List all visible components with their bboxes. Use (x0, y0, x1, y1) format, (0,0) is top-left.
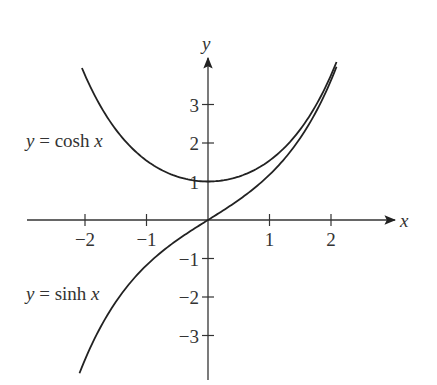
y-tick-label: −2 (179, 287, 199, 308)
x-axis-label: x (399, 210, 409, 231)
y-tick-label: 2 (190, 133, 200, 154)
sinh-label: y = sinh x (24, 283, 100, 304)
x-tick-label: 1 (265, 229, 275, 250)
x-tick-label: −2 (75, 229, 95, 250)
y-tick-label: 1 (190, 172, 200, 193)
y-axis-label: y (200, 33, 211, 54)
y-tick-label: −3 (179, 326, 199, 347)
cosh-curve (82, 62, 337, 182)
y-tick-label: −1 (179, 249, 199, 270)
x-tick-label: −1 (136, 229, 156, 250)
cosh-label: y = cosh x (24, 130, 103, 151)
y-tick-label: 3 (190, 95, 200, 116)
hyperbolic-functions-chart: x y −2−112321−1−2−3 y = cosh x y = sinh … (0, 0, 437, 385)
x-tick-label: 2 (326, 229, 336, 250)
